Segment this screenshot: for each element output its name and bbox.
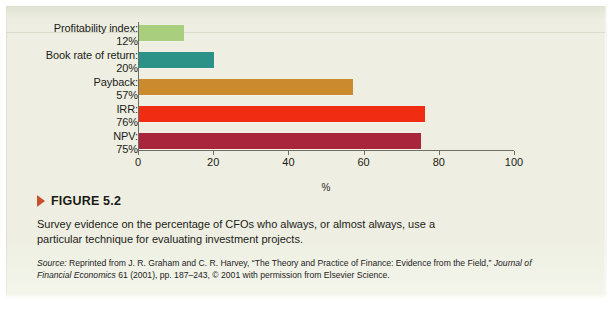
category-name: IRR:	[16, 103, 138, 116]
category-value: 12%	[16, 35, 138, 48]
bar-payback	[139, 79, 353, 95]
category-name: Payback:	[16, 76, 138, 89]
category-value: 75%	[16, 143, 138, 156]
x-axis-title: %	[138, 182, 514, 193]
source-label: Source:	[37, 258, 67, 268]
bar-profitability-index	[139, 25, 184, 41]
category-name: Profitability index:	[16, 22, 138, 35]
category-label-irr: IRR: 76%	[16, 103, 138, 129]
x-tick-label: 80	[419, 156, 459, 168]
bar-irr	[139, 106, 425, 122]
x-tick-label: 0	[118, 156, 158, 168]
category-label-profitability-index: Profitability index: 12%	[16, 22, 138, 48]
figure-heading: FIGURE 5.2	[37, 194, 582, 208]
x-tick-label: 40	[268, 156, 308, 168]
x-tick-label: 20	[193, 156, 233, 168]
figure-caption-block: FIGURE 5.2 Survey evidence on the percen…	[37, 194, 582, 281]
bar-npv	[139, 133, 421, 149]
category-axis-labels: Profitability index: 12% Book rate of re…	[16, 22, 138, 162]
triangle-right-icon	[37, 195, 45, 207]
source-text-part-2: 61 (2001), pp. 187–243, © 2001 with perm…	[116, 270, 390, 280]
figure-description: Survey evidence on the percentage of CFO…	[37, 217, 467, 247]
source-text-part-1: Reprinted from J. R. Graham and C. R. Ha…	[67, 258, 494, 268]
figure-title: FIGURE 5.2	[51, 194, 121, 208]
category-value: 76%	[16, 116, 138, 129]
scan-edge-bottom	[6, 294, 607, 298]
x-axis-line	[138, 150, 514, 151]
category-label-payback: Payback: 57%	[16, 76, 138, 102]
category-label-npv: NPV: 75%	[16, 130, 138, 156]
figure-source: Source: Reprinted from J. R. Graham and …	[37, 257, 557, 281]
bar-book-rate-of-return	[139, 52, 214, 68]
category-name: Book rate of return:	[16, 49, 138, 62]
x-tick-label: 100	[494, 156, 534, 168]
category-value: 20%	[16, 62, 138, 75]
plot-area: 0 20 40 60 80 100	[138, 22, 523, 162]
category-name: NPV:	[16, 130, 138, 143]
figure-panel: Profitability index: 12% Book rate of re…	[6, 6, 607, 298]
bar-chart: Profitability index: 12% Book rate of re…	[6, 14, 607, 184]
category-label-book-rate-of-return: Book rate of return: 20%	[16, 49, 138, 75]
category-value: 57%	[16, 89, 138, 102]
x-tick-label: 60	[344, 156, 384, 168]
scan-edge-right	[604, 6, 607, 298]
figure-screenshot: Profitability index: 12% Book rate of re…	[0, 0, 613, 310]
